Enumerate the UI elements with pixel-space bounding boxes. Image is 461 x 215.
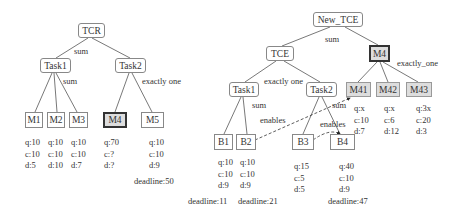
- node-m3[interactable]: M3: [69, 112, 88, 128]
- node-b2[interactable]: B2: [236, 134, 256, 150]
- attrs-m43: q:3x c:20 d:3: [416, 103, 431, 138]
- attrs-b2: q:10 c:10 d:9: [240, 157, 255, 192]
- m42-c: c:6: [384, 115, 399, 127]
- label-tce-exactly-one: exactly one: [264, 76, 303, 86]
- b4-d: d:9: [339, 184, 354, 196]
- b1-deadline: deadline:11: [188, 196, 227, 206]
- node-m4-left[interactable]: M4: [103, 112, 127, 128]
- node-tce[interactable]: TCE: [266, 46, 294, 61]
- label-task1-sum-right: sum: [252, 100, 266, 110]
- attrs-m5: q:10 c:10 d:9: [149, 137, 164, 172]
- label-m4-exactly-one: exactly_one: [397, 58, 438, 68]
- attrs-m42: q:x c:6 d:12: [384, 103, 399, 138]
- node-m1[interactable]: M1: [25, 112, 43, 128]
- node-m41[interactable]: M41: [346, 82, 371, 97]
- label-task2-exactly-one-left: exactly one: [142, 76, 181, 86]
- node-m2[interactable]: M2: [47, 112, 65, 128]
- m1-q: q:10: [25, 137, 40, 149]
- node-b1[interactable]: B1: [214, 134, 233, 150]
- attrs-m3: q:10 c:10 d:7: [71, 137, 86, 172]
- m5-deadline: deadline:50: [134, 176, 174, 186]
- node-task2-right[interactable]: Task2: [306, 82, 337, 97]
- attrs-m4-left: q:70 c:? d:?: [104, 137, 119, 172]
- m5-q: q:10: [149, 137, 164, 149]
- m43-d: d:3: [416, 126, 431, 138]
- attrs-b3: q:15 c:5 d:5: [294, 161, 309, 196]
- label-task1-sum-left: sum: [63, 76, 77, 86]
- m5-c: c:10: [149, 149, 164, 161]
- m41-c: c:10: [354, 115, 369, 127]
- b4-c: c:10: [339, 173, 354, 185]
- m1-c: c:10: [25, 149, 40, 161]
- node-m4-right[interactable]: M4: [369, 45, 390, 62]
- label-task2-sum-right: sum: [332, 100, 346, 110]
- node-new-tce[interactable]: New_TCE: [313, 12, 363, 27]
- node-b4[interactable]: B4: [330, 134, 355, 150]
- m41-d: d:7: [354, 126, 369, 138]
- node-task1-left[interactable]: Task1: [40, 58, 71, 73]
- m4-d: d:?: [104, 160, 119, 172]
- m43-q: q:3x: [416, 103, 431, 115]
- b3-c: c:5: [294, 173, 309, 185]
- b1-d: d:9: [218, 180, 233, 192]
- b2-d: d:9: [240, 180, 255, 192]
- m2-d: d:10: [48, 160, 63, 172]
- node-m5[interactable]: M5: [141, 112, 164, 128]
- m4-q: q:70: [104, 137, 119, 149]
- b4-deadline: deadline:47: [328, 196, 368, 206]
- label-tcr-sum: sum: [74, 46, 88, 56]
- b2-c: c:10: [240, 169, 255, 181]
- m4-c: c:?: [104, 149, 119, 161]
- node-m43[interactable]: M43: [406, 82, 432, 97]
- attrs-b1: q:10 c:10 d:9: [218, 157, 233, 192]
- node-m42[interactable]: M42: [376, 82, 400, 97]
- attrs-m41: q:x c:10 d:7: [354, 103, 369, 138]
- attrs-b4: q:40 c:10 d:9: [339, 161, 354, 196]
- attrs-m1: q:10 c:10 d:5: [25, 137, 40, 172]
- m2-q: q:10: [48, 137, 63, 149]
- m41-q: q:x: [354, 103, 369, 115]
- m3-q: q:10: [71, 137, 86, 149]
- b3-q: q:15: [294, 161, 309, 173]
- m1-d: d:5: [25, 160, 40, 172]
- b4-q: q:40: [339, 161, 354, 173]
- m43-c: c:20: [416, 115, 431, 127]
- label-enables-b3: enables: [320, 119, 346, 129]
- node-task1-right[interactable]: Task1: [229, 82, 259, 97]
- b1-c: c:10: [218, 169, 233, 181]
- m42-q: q:x: [384, 103, 399, 115]
- m5-d: d:9: [149, 160, 164, 172]
- b3-d: d:5: [294, 184, 309, 196]
- attrs-m2: q:10 c:10 d:10: [48, 137, 63, 172]
- node-tcr[interactable]: TCR: [78, 23, 105, 38]
- m42-d: d:12: [384, 126, 399, 138]
- label-new-tce-sum: sum: [325, 34, 339, 44]
- b2-deadline: deadline:21: [238, 196, 278, 206]
- b2-q: q:10: [240, 157, 255, 169]
- b1-q: q:10: [218, 157, 233, 169]
- m3-d: d:7: [71, 160, 86, 172]
- node-b3[interactable]: B3: [292, 134, 314, 150]
- label-enables-b2: enables: [260, 115, 286, 125]
- node-task2-left[interactable]: Task2: [115, 58, 146, 73]
- m3-c: c:10: [71, 149, 86, 161]
- m2-c: c:10: [48, 149, 63, 161]
